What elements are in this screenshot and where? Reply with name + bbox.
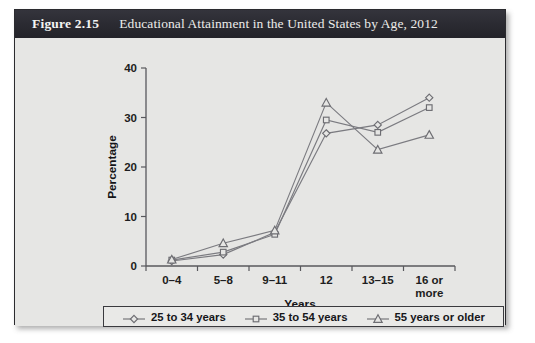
legend-entry-label: 35 to 54 years — [273, 311, 348, 323]
triangle-legend-glyph — [366, 313, 390, 325]
legend-entry[interactable]: 25 to 34 years — [122, 311, 226, 323]
y-tick-label: 20 — [124, 161, 137, 173]
figure-titlebar: Figure 2.15 Educational Attainment in th… — [15, 10, 505, 38]
chart-plot-area: 010203040 0–45–89–111213–1516 ormore Per… — [15, 38, 505, 326]
square-marker — [323, 117, 329, 123]
y-axis-tick-labels: 010203040 — [124, 62, 137, 272]
y-tick-label: 40 — [124, 62, 137, 74]
x-tick-label: 16 or — [416, 274, 444, 286]
square-marker — [253, 316, 259, 322]
square-marker — [375, 130, 381, 136]
chart-legend: 25 to 34 years35 to 54 years55 years or … — [103, 306, 504, 327]
x-axis-ticks — [146, 266, 455, 271]
legend-entry-label: 55 years or older — [395, 311, 485, 323]
y-tick-label: 30 — [124, 112, 137, 124]
diamond-legend-glyph — [122, 313, 146, 325]
diamond-marker — [374, 121, 381, 128]
line-chart-svg: 010203040 0–45–89–111213–1516 ormore Per… — [15, 38, 507, 326]
y-axis-ticks — [141, 68, 146, 266]
diamond-marker — [130, 315, 137, 322]
x-tick-label: 13–15 — [362, 274, 395, 286]
chart-series-layer — [168, 94, 434, 265]
square-marker — [426, 105, 432, 111]
diamond-marker — [323, 130, 330, 137]
diamond-icon — [122, 311, 146, 323]
x-tick-label: 5–8 — [214, 274, 234, 286]
square-marker — [220, 249, 226, 255]
figure-number-label: Figure 2.15 — [32, 16, 99, 32]
triangle-marker — [425, 131, 433, 139]
triangle-marker — [322, 98, 330, 106]
square-legend-glyph — [244, 313, 268, 325]
series-polyline — [172, 98, 430, 261]
x-axis-tick-labels: 0–45–89–111213–1516 ormore — [162, 274, 443, 299]
x-tick-label: 12 — [320, 274, 333, 286]
square-icon — [244, 311, 268, 323]
y-axis-title: Percentage — [105, 135, 119, 199]
figure-caption-text: Educational Attainment in the United Sta… — [119, 16, 438, 32]
x-tick-label: 0–4 — [162, 274, 182, 286]
triangle-icon — [366, 311, 390, 323]
series-diamond — [168, 94, 433, 265]
figure-container: Figure 2.15 Educational Attainment in th… — [14, 9, 506, 325]
x-tick-label: more — [415, 287, 443, 299]
y-tick-label: 0 — [131, 260, 137, 272]
legend-entry[interactable]: 35 to 54 years — [244, 311, 348, 323]
legend-entry-label: 25 to 34 years — [151, 311, 226, 323]
y-tick-label: 10 — [124, 211, 137, 223]
diamond-marker — [426, 94, 433, 101]
x-tick-label: 9–11 — [262, 274, 288, 286]
legend-entry[interactable]: 55 years or older — [366, 311, 485, 323]
series-triangle — [168, 98, 434, 263]
